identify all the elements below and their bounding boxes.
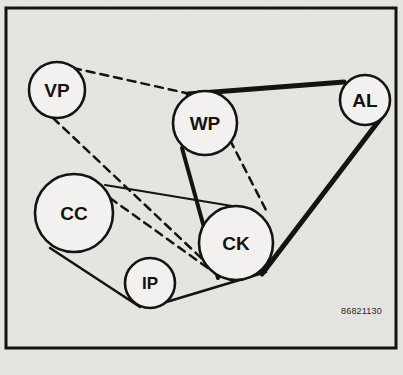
pulley-label-cc: CC [60,203,88,224]
reference-code: 86821130 [341,306,382,316]
pulley-label-ck: CK [222,233,250,254]
pulley-label-wp: WP [190,113,221,134]
pulley-al: AL [340,75,390,125]
pulley-ip: IP [125,258,175,308]
pulley-label-ip: IP [142,274,158,293]
belt-routing-diagram: VPWPALCCCKIP 86821130 [0,0,403,375]
pulley-vp: VP [29,62,85,118]
belt-diagram-canvas: VPWPALCCCKIP 86821130 [0,0,403,375]
pulley-label-vp: VP [44,80,70,101]
pulley-ck: CK [199,206,273,280]
pulley-cc: CC [35,174,113,252]
pulley-wp: WP [173,91,237,155]
pulley-label-al: AL [352,90,378,111]
